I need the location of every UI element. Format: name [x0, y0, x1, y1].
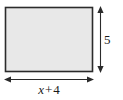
width-operator: + [44, 82, 53, 97]
arrow-right-icon [87, 76, 94, 82]
height-dimension-line [97, 6, 103, 73]
arrow-down-icon [97, 66, 103, 73]
arrow-up-icon [97, 6, 103, 13]
rectangle-shape [6, 8, 93, 72]
geometry-figure: x+4 5 [0, 0, 123, 100]
width-constant: 4 [53, 82, 60, 97]
height-dimension-label: 5 [104, 33, 111, 46]
width-dimension-label: x+4 [0, 83, 98, 96]
arrow-left-icon [4, 76, 11, 82]
